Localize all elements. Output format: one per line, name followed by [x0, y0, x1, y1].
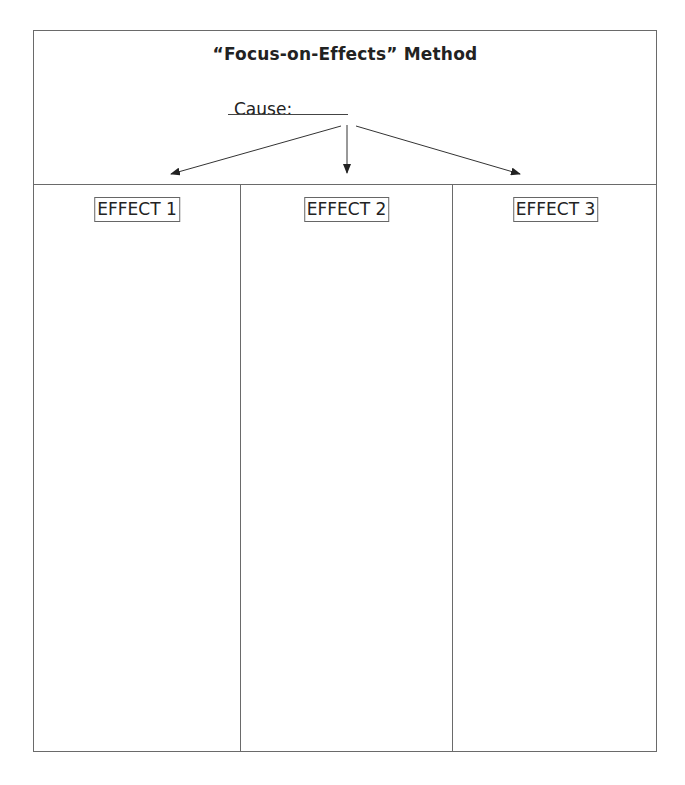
effect-column-3[interactable]: EFFECT 3 [453, 184, 658, 752]
header-section: “Focus-on-Effects” Method Cause: [34, 31, 656, 185]
effect-column-2[interactable]: EFFECT 2 [241, 184, 453, 752]
effect-label-3: EFFECT 3 [513, 197, 599, 222]
arrow-to-effect-1 [171, 126, 341, 174]
effect-label-1: EFFECT 1 [94, 197, 180, 222]
organizer-frame: “Focus-on-Effects” Method Cause: EFFECT … [33, 30, 657, 752]
arrows-diagram [34, 31, 658, 184]
effect-label-2: EFFECT 2 [304, 197, 390, 222]
effects-columns: EFFECT 1 EFFECT 2 EFFECT 3 [34, 184, 656, 752]
effect-column-1[interactable]: EFFECT 1 [34, 184, 241, 752]
arrow-to-effect-3 [356, 126, 520, 174]
